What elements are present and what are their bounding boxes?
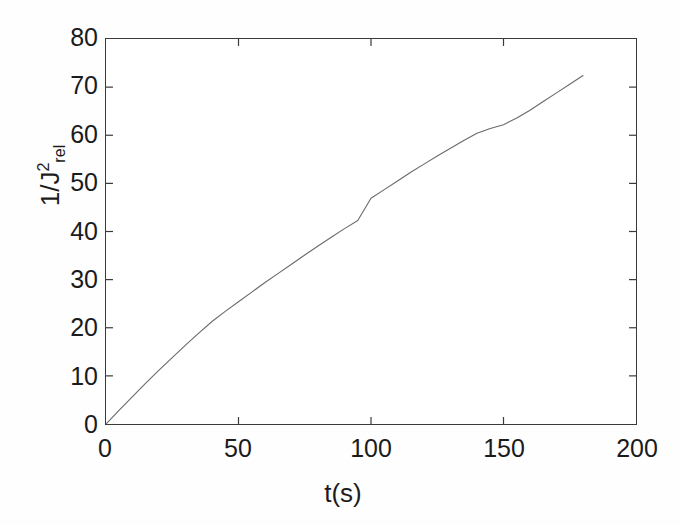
y-tick-label: 30 [70,267,98,292]
y-tick-label: 70 [70,73,98,98]
y-axis-label-subscript: rel [50,145,68,163]
x-tick-label: 0 [98,436,112,461]
plot-area [105,38,637,425]
x-axis-label-text: t(s) [324,478,362,509]
y-axis-label: 1/J2rel [35,46,66,306]
x-axis-label: t(s) [0,478,680,509]
y-tick-label: 60 [70,122,98,147]
y-axis-label-prefix: 1/J [35,172,65,207]
figure-canvas: 01020304050607080 050100150200 t(s) 1/J2… [0,0,680,525]
y-tick-label: 40 [70,219,98,244]
y-tick-label: 50 [70,170,98,195]
y-tick-label: 20 [70,315,98,340]
y-axis-label-exponent: 2 [34,163,52,172]
y-tick-label: 0 [84,412,98,437]
x-tick-label: 100 [350,436,392,461]
x-tick-label: 50 [224,436,252,461]
y-tick-label: 80 [70,25,98,50]
x-tick-label: 200 [616,436,658,461]
y-tick-label: 10 [70,364,98,389]
data-curve [106,39,636,424]
x-tick-label-group: 050100150200 [0,436,680,470]
x-tick-label: 150 [483,436,525,461]
